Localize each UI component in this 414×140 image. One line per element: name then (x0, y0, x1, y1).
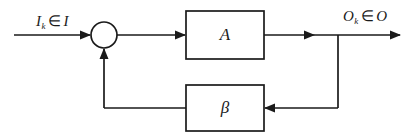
input-signal-set: I (64, 13, 70, 29)
block-diagram-canvas: A β Ik∈I Ok∈O (0, 0, 414, 140)
input-arrowhead-icon (80, 31, 91, 40)
feedback-block-beta: β (186, 85, 264, 131)
feedback-block-input-arrowhead-icon (264, 104, 275, 113)
forward-block-label: A (219, 25, 231, 44)
forward-block-input-arrowhead-icon (175, 31, 186, 40)
output-signal-subscript: k (354, 16, 359, 26)
output-wire (264, 31, 401, 40)
input-element-of-icon: ∈ (46, 13, 64, 29)
feedback-block-label: β (220, 98, 230, 117)
output-signal-label: Ok∈O (343, 7, 388, 25)
input-wire (14, 31, 91, 40)
output-mid-arrowhead-icon (304, 31, 315, 40)
summing-junction (91, 22, 117, 48)
feedback-tap-wire (264, 35, 338, 113)
summing-junction-circle (91, 22, 117, 48)
input-signal-subscript: k (42, 21, 47, 31)
output-signal-symbol: O (343, 8, 354, 24)
output-signal-set: O (376, 8, 387, 24)
input-signal-label: Ik∈I (36, 12, 69, 30)
output-element-of-icon: ∈ (359, 8, 377, 24)
output-arrowhead-icon (390, 31, 401, 40)
feedback-return-wire (100, 48, 187, 108)
junction-feedback-arrowhead-icon (100, 48, 109, 59)
forward-block-A: A (186, 11, 264, 59)
input-signal-symbol: I (36, 13, 42, 29)
junction-to-forward-block-wire (117, 31, 186, 40)
